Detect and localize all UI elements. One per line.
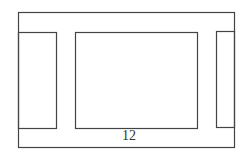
dimension-label: 12 [119, 129, 139, 143]
center-panel [76, 33, 198, 129]
right-panel [217, 32, 235, 128]
left-panel [19, 33, 57, 129]
